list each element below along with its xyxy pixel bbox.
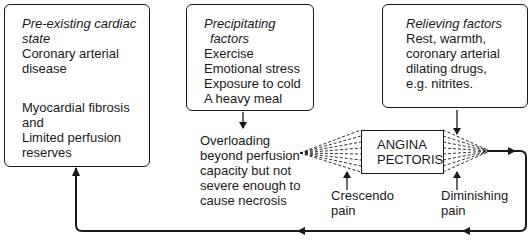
diminishing-line-1: Diminishing: [441, 188, 508, 203]
angina-line-2: PECTORIS: [377, 152, 443, 167]
precipitating-line-2: Emotional stress: [204, 61, 300, 76]
overloading-line-3: capacity but not: [200, 163, 291, 178]
relieving-line-2: coronary arterial: [406, 46, 500, 61]
pre-existing-title-2: state: [22, 31, 50, 46]
overloading-line-1: Overloading: [200, 133, 270, 148]
relieving-line-4: e.g. nitrites.: [406, 76, 473, 91]
angina-line-1: ANGINA: [377, 137, 427, 152]
diminishing-line-2: pain: [441, 203, 466, 218]
overloading-line-2: beyond perfusion: [200, 148, 300, 163]
pre-existing-line-1: Coronary arterial: [22, 46, 119, 61]
precipitating-line-3: Exposure to cold: [204, 76, 301, 91]
precipitating-line-1: Exercise: [204, 46, 254, 61]
pre-existing-line-3: Myocardial fibrosis: [22, 100, 130, 115]
pre-existing-line-6: reserves: [22, 145, 72, 160]
relieving-line-1: Rest, warmth,: [406, 31, 486, 46]
pre-existing-line-2: disease: [22, 61, 67, 76]
crescendo-line-2: pain: [331, 203, 356, 218]
pre-existing-title-1: Pre-existing cardiac: [22, 16, 136, 31]
overloading-line-5: cause necrosis: [200, 193, 287, 208]
pre-existing-line-5: Limited perfusion: [22, 130, 121, 145]
overloading-line-4: severe enough to: [200, 178, 300, 193]
precipitating-title-2: factors: [210, 31, 249, 46]
relieving-line-3: dilating drugs,: [406, 61, 487, 76]
crescendo-line-1: Crescendo: [331, 188, 394, 203]
relieving-title: Relieving factors: [406, 16, 502, 31]
pre-existing-line-4: and: [22, 115, 44, 130]
precipitating-line-4: A heavy meal: [204, 91, 282, 106]
precipitating-title-1: Precipitating: [204, 16, 276, 31]
